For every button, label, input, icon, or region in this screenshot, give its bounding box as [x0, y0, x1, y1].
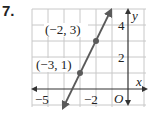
point-label-neg3-1: (−3, 1) [36, 57, 72, 72]
x-tick-neg5: −5 [35, 92, 49, 107]
point-neg3-1 [77, 70, 83, 76]
x-axis-label: x [135, 74, 142, 89]
point-neg2-3 [93, 38, 99, 44]
origin-label: O [114, 91, 124, 106]
y-tick-2: 2 [118, 50, 125, 65]
point-label-neg2-3: (−2, 3) [45, 22, 81, 37]
y-axis-label: y [130, 8, 138, 23]
x-tick-neg2: −2 [84, 92, 98, 107]
y-tick-4: 4 [118, 18, 125, 33]
coordinate-graph: (−2, 3) (−3, 1) 4 2 −5 −2 O x y [0, 0, 149, 114]
